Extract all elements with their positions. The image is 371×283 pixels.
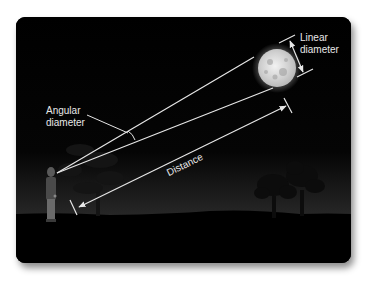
- angular-label-line1: Angular: [46, 105, 85, 117]
- linear-diameter-label: Linear diameter: [300, 32, 339, 56]
- angular-diameter-label: Angular diameter: [46, 105, 85, 129]
- moon: [258, 49, 296, 87]
- diagram-panel: Distance Linear diameter Angular diamete…: [16, 17, 351, 263]
- linear-label-line1: Linear: [300, 32, 339, 44]
- angular-label-line2: diameter: [46, 117, 85, 129]
- ground: [16, 210, 351, 263]
- linear-label-line2: diameter: [300, 44, 339, 56]
